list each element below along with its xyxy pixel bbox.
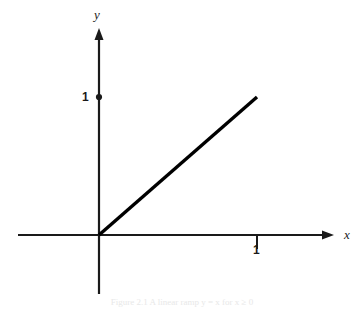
y-axis-arrow-icon — [95, 28, 104, 40]
figure-container: y x 1 1 Figure 2.1 A linear ramp y = x f… — [0, 0, 364, 310]
data-line-y-equals-x — [99, 97, 257, 235]
x-axis-tick-label-1: 1 — [253, 244, 260, 256]
figure-caption: Figure 2.1 A linear ramp y = x for x ≥ 0 — [0, 297, 364, 307]
y-axis-tick-label-1: 1 — [82, 91, 89, 103]
x-axis-label: x — [344, 228, 350, 241]
coordinate-plot — [0, 0, 364, 310]
y-axis-label: y — [94, 8, 100, 21]
y-axis-unit-dot-marker — [96, 94, 102, 100]
x-axis-arrow-icon — [322, 231, 334, 240]
